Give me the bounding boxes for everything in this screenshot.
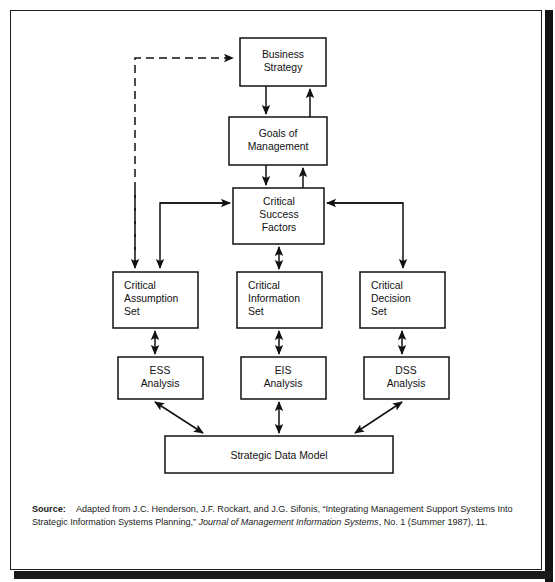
scan-shadow-bottom-edge [14, 571, 553, 579]
source-label: Source: [32, 503, 76, 516]
connection-feedback-to-business-strategy [135, 58, 233, 268]
node-critical-assumption-set-line1: Critical [124, 280, 156, 291]
node-critical-information-set-line3: Set [248, 306, 264, 317]
node-critical-decision-set-line1: Critical [371, 280, 403, 291]
node-ess-analysis[interactable]: ESS Analysis [118, 357, 203, 399]
source-text-part2: , No. 1 (Summer 1987), 11. [379, 517, 488, 527]
figure-page: Business Strategy Goals of Management Cr… [0, 0, 555, 582]
node-critical-information-set-line2: Information [248, 293, 300, 304]
node-critical-decision-set[interactable]: Critical Decision Set [360, 272, 445, 328]
node-ess-analysis-line1: ESS [150, 365, 171, 376]
node-dss-analysis-line2: Analysis [387, 378, 426, 389]
node-critical-success-factors-line2: Success [259, 209, 298, 220]
node-business-strategy-line2: Strategy [264, 62, 304, 73]
node-critical-information-set-line1: Critical [248, 280, 280, 291]
node-critical-assumption-set-line3: Set [124, 306, 140, 317]
node-business-strategy-line1: Business [262, 49, 304, 60]
node-business-strategy[interactable]: Business Strategy [240, 38, 326, 86]
flow-diagram: Business Strategy Goals of Management Cr… [10, 10, 543, 510]
node-critical-success-factors[interactable]: Critical Success Factors [233, 188, 324, 244]
node-strategic-data-model[interactable]: Strategic Data Model [165, 436, 393, 473]
node-critical-assumption-set[interactable]: Critical Assumption Set [113, 272, 198, 328]
node-goals-of-management-line1: Goals of [259, 128, 298, 139]
connection-dss-to-strategic-data-model [355, 402, 402, 433]
node-eis-analysis-line1: EIS [275, 365, 292, 376]
node-eis-analysis[interactable]: EIS Analysis [241, 357, 326, 399]
source-caption: Source:Adapted from J.C. Henderson, J.F.… [32, 503, 524, 528]
connection-csf-to-critical-decision-set [327, 203, 403, 268]
connection-ess-to-strategic-data-model [155, 402, 203, 433]
node-critical-assumption-set-line2: Assumption [124, 293, 179, 304]
connection-csf-to-critical-assumption-set [160, 203, 230, 268]
node-critical-success-factors-line3: Factors [262, 222, 297, 233]
node-critical-information-set[interactable]: Critical Information Set [237, 272, 322, 328]
node-strategic-data-model-label: Strategic Data Model [230, 450, 327, 461]
node-critical-decision-set-line3: Set [371, 306, 387, 317]
node-critical-decision-set-line2: Decision [371, 293, 411, 304]
node-dss-analysis[interactable]: DSS Analysis [364, 357, 449, 399]
node-critical-success-factors-line1: Critical [263, 196, 295, 207]
node-ess-analysis-line2: Analysis [141, 378, 180, 389]
source-journal-title: Journal of Management Information System… [198, 517, 378, 527]
node-eis-analysis-line2: Analysis [264, 378, 303, 389]
scan-shadow-right-edge [545, 10, 553, 582]
node-goals-of-management[interactable]: Goals of Management [229, 117, 327, 165]
node-dss-analysis-line1: DSS [395, 365, 416, 376]
node-goals-of-management-line2: Management [248, 141, 309, 152]
